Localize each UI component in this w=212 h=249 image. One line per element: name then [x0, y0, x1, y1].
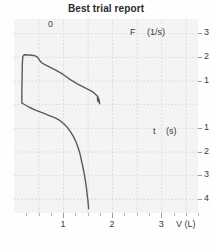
y-axis-tick-mark	[198, 33, 202, 34]
x-axis-tick-mark	[161, 213, 162, 218]
x-axis-minor-tick-mark	[51, 213, 52, 216]
y-axis-tick-label: 3	[204, 27, 209, 37]
y-axis-tick-mark	[198, 81, 202, 82]
x-axis-tick-mark	[112, 213, 113, 218]
plot-area	[14, 19, 198, 213]
zero-label: 0	[48, 19, 53, 29]
chart-title: Best trial report	[0, 3, 212, 14]
x-axis-minor-tick-mark	[75, 213, 76, 216]
inspiratory-limb-path	[22, 103, 89, 209]
x-axis-minor-tick-mark	[186, 213, 187, 216]
x-axis-minor-tick-mark	[88, 213, 89, 216]
time-axis-label: t	[153, 126, 156, 136]
y-axis-tick-label: 2	[204, 51, 209, 61]
x-axis-minor-tick-mark	[137, 213, 138, 216]
y-axis-tick-mark	[198, 152, 202, 153]
volume-axis-label: V (L)	[176, 219, 196, 229]
x-axis-tick-label: 2	[102, 219, 122, 229]
x-axis-minor-tick-mark	[174, 213, 175, 216]
y-axis-tick-mark	[198, 128, 202, 129]
y-axis-tick-label: 1	[204, 75, 209, 85]
y-axis-tick-label: 3	[204, 169, 209, 179]
time-axis-unit: (s)	[166, 126, 177, 136]
x-axis-minor-tick-mark	[39, 213, 40, 216]
x-axis-tick-label: 1	[53, 219, 73, 229]
flow-axis-label: F	[130, 27, 136, 37]
x-axis-tick-mark	[63, 213, 64, 218]
x-axis-minor-tick-mark	[124, 213, 125, 216]
y-axis-tick-label: 4	[204, 193, 209, 203]
chart-root: Best trial report 0 F (1/s) t (s) 321123…	[0, 0, 212, 249]
y-axis-tick-mark	[198, 199, 202, 200]
y-axis-tick-mark	[198, 175, 202, 176]
x-axis-tick-label: 3	[151, 219, 171, 229]
x-axis-minor-tick-mark	[198, 213, 199, 216]
expiratory-limb-path	[22, 55, 100, 104]
y-axis-tick-label: 2	[204, 146, 209, 156]
flow-axis-unit: (1/s)	[147, 27, 165, 37]
x-axis-minor-tick-mark	[26, 213, 27, 216]
y-axis-tick-label: 1	[204, 122, 209, 132]
x-axis-minor-tick-mark	[100, 213, 101, 216]
flow-volume-loop	[14, 19, 198, 213]
x-axis-minor-tick-mark	[149, 213, 150, 216]
y-axis-tick-mark	[198, 57, 202, 58]
